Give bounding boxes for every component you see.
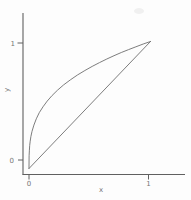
x-tick-label-0: 0 bbox=[27, 180, 31, 188]
y-axis-label: y bbox=[3, 88, 11, 92]
diagonal-line bbox=[29, 42, 151, 169]
scan-smudge-artifact bbox=[134, 8, 144, 14]
plot-canvas: 1 0 0 1 x y bbox=[0, 0, 191, 200]
y-tick-label-1: 1 bbox=[11, 40, 15, 48]
x-tick-label-1: 1 bbox=[146, 180, 150, 188]
x-axis-label: x bbox=[99, 186, 103, 194]
y-tick-label-0: 0 bbox=[10, 157, 14, 165]
plot-figure: 1 0 0 1 x y bbox=[0, 0, 191, 200]
